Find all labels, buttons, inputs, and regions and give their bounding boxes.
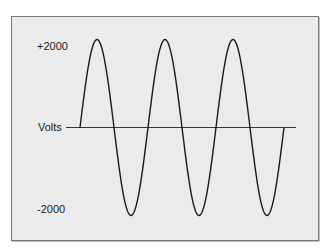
sine-wave-plot (0, 0, 330, 250)
